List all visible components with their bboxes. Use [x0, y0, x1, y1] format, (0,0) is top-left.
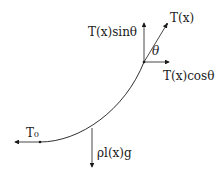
bottom-tension-label: T₀ [26, 126, 39, 140]
weight-label: ρl(x)g [97, 146, 132, 160]
horizontal-component-label: T(x)cosθ [163, 69, 214, 83]
top-point [143, 61, 146, 64]
vertical-component-label: T(x)sinθ [88, 25, 137, 39]
tension-label: T(x) [170, 11, 194, 25]
force-diagram: T(x) T(x)sinθ θ T(x)cosθ T₀ ρl(x)g [0, 0, 224, 175]
tension-tip-dot [166, 23, 168, 25]
angle-label: θ [152, 44, 160, 58]
bottom-point [39, 141, 42, 144]
